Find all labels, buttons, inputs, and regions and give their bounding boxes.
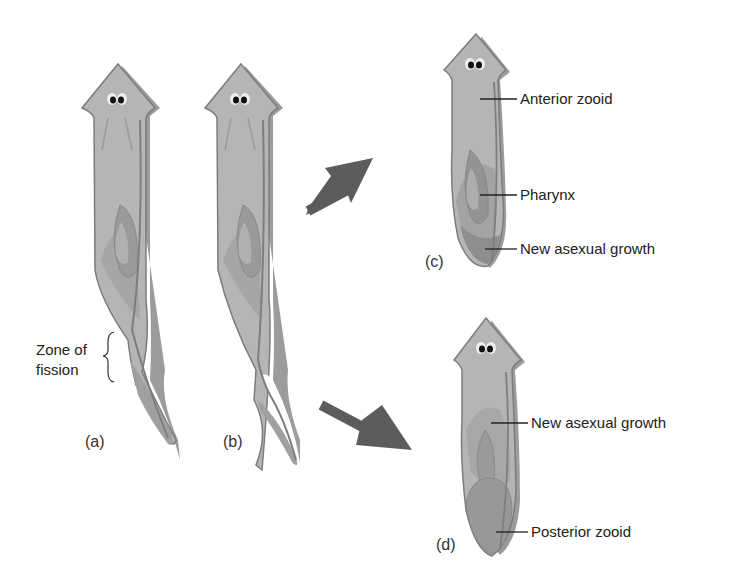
label-anterior-zooid: Anterior zooid — [520, 90, 613, 108]
panel-label-a: (a) — [85, 433, 105, 451]
label-new-growth-c: New asexual growth — [520, 240, 655, 258]
zone-label-line1: Zone of — [36, 340, 87, 360]
label-new-growth-d: New asexual growth — [531, 414, 666, 432]
worm-b — [205, 64, 300, 470]
worm-d — [454, 318, 525, 556]
arrow-to-d — [321, 405, 412, 450]
label-posterior-zooid: Posterior zooid — [531, 523, 631, 541]
zone-of-fission-label: Zone of fission — [36, 340, 87, 380]
zone-label-line2: fission — [36, 360, 87, 380]
panel-label-d: (d) — [436, 536, 456, 554]
panel-label-c: (c) — [425, 253, 444, 271]
fission-diagram: Zone of fission (a) (b) (c) (d) Anterior… — [0, 0, 729, 584]
panel-label-b: (b) — [223, 433, 243, 451]
zone-brace — [103, 332, 114, 382]
label-pharynx: Pharynx — [520, 186, 575, 204]
worm-c — [444, 34, 510, 268]
worm-a — [82, 64, 180, 460]
arrow-to-c — [306, 158, 373, 215]
diagram-artwork — [0, 0, 729, 584]
